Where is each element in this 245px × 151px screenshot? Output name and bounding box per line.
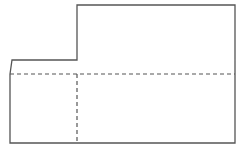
net-diagram	[0, 0, 245, 151]
